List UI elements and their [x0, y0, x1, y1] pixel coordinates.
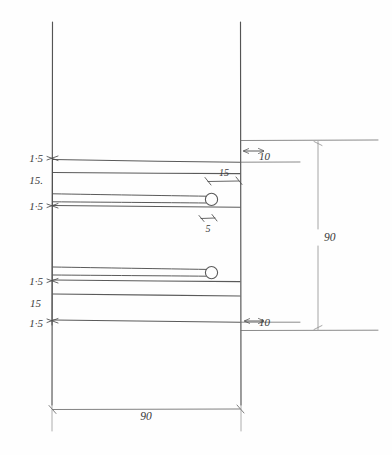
- plate-outline: [52, 22, 241, 405]
- dim-left-6: 1·5: [29, 317, 43, 329]
- right-extension-lines: [241, 140, 378, 331]
- dim-right-top-10: 10: [259, 150, 271, 162]
- right-dimension-90-line: [314, 142, 322, 330]
- right-dimension-labels: 10 90 10: [259, 150, 336, 328]
- engineering-sketch: 1·5 15. 1·5 1·5 15 1·5 10 90 10 15: [0, 0, 392, 455]
- upper-slot: [53, 193, 218, 205]
- left-dimension-labels: 1·5 15. 1·5 1·5 15 1·5: [29, 152, 43, 329]
- dim-left-5: 15: [30, 297, 42, 309]
- dim-left-3: 1·5: [29, 200, 43, 212]
- dim-bottom-width-90: 90: [140, 410, 152, 422]
- slot-width-dimension: [199, 215, 217, 222]
- dim-right-height-90: 90: [324, 231, 336, 243]
- dim-left-2: 15.: [29, 174, 43, 186]
- lower-slot: [53, 267, 218, 279]
- dim-slot-length-15: 15: [219, 167, 229, 178]
- dim-slot-width-5: 5: [206, 223, 211, 234]
- dim-right-bottom-10: 10: [259, 316, 271, 328]
- plate-horizontal-edges: [53, 160, 240, 323]
- dim-left-4: 1·5: [29, 275, 43, 287]
- dim-left-1: 1·5: [29, 152, 43, 164]
- left-dimension-chain: [47, 156, 58, 325]
- slot-length-dimension: [205, 177, 242, 185]
